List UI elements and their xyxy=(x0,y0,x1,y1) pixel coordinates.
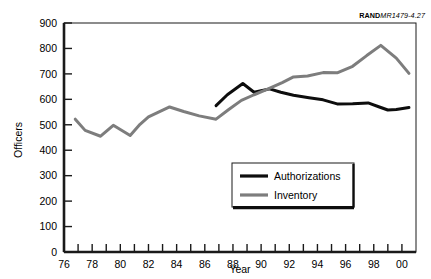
legend-label-authorizations: Authorizations xyxy=(274,170,341,182)
x-tick-label: 84 xyxy=(171,258,183,270)
x-tick-label: 76 xyxy=(58,258,70,270)
y-axis-tick-labels: 0100200300400500600700800900 xyxy=(39,17,57,258)
line-chart: 0100200300400500600700800900 76788082848… xyxy=(0,0,431,279)
x-tick-label: 94 xyxy=(312,258,324,270)
x-tick-label: 98 xyxy=(368,258,380,270)
y-tick-label: 300 xyxy=(39,169,57,181)
legend-label-inventory: Inventory xyxy=(274,189,318,201)
chart-legend: AuthorizationsInventory xyxy=(232,163,354,208)
y-tick-label: 100 xyxy=(39,220,57,232)
y-tick-label: 400 xyxy=(39,144,57,156)
x-tick-label: 96 xyxy=(340,258,352,270)
x-tick-label: 90 xyxy=(255,258,267,270)
x-tick-label: 92 xyxy=(283,258,295,270)
x-tick-label: 78 xyxy=(86,258,98,270)
x-tick-label: 00 xyxy=(396,258,408,270)
y-tick-label: 800 xyxy=(39,42,57,54)
y-tick-label: 200 xyxy=(39,195,57,207)
x-tick-label: 82 xyxy=(143,258,155,270)
x-axis-title: Year xyxy=(229,263,251,275)
x-tick-label: 80 xyxy=(114,258,126,270)
y-tick-label: 600 xyxy=(39,93,57,105)
y-tick-label: 0 xyxy=(51,246,57,258)
y-tick-label: 500 xyxy=(39,119,57,131)
x-tick-label: 86 xyxy=(199,258,211,270)
y-tick-label: 900 xyxy=(39,17,57,29)
chart-figure: RANDMR1479-4.27 010020030040050060070080… xyxy=(0,0,431,279)
y-tick-label: 700 xyxy=(39,68,57,80)
y-axis-title: Officers xyxy=(12,122,24,158)
